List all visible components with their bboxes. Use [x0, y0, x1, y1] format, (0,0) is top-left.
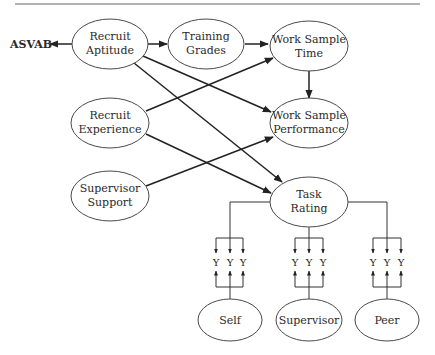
- svg-text:Performance: Performance: [273, 123, 344, 136]
- svg-text:Recruit: Recruit: [89, 109, 131, 122]
- svg-text:Work Sample: Work Sample: [272, 109, 346, 122]
- indicator-y: Y: [239, 257, 247, 268]
- indicator-y: Y: [305, 257, 313, 268]
- node-work-sample-time: Work Sample Time: [270, 21, 348, 71]
- svg-text:Supervisor: Supervisor: [80, 182, 141, 195]
- svg-text:Rating: Rating: [290, 202, 327, 215]
- node-self: Self: [198, 299, 262, 341]
- svg-text:Time: Time: [295, 47, 323, 60]
- svg-text:Grades: Grades: [186, 44, 226, 57]
- indicator-y: Y: [369, 257, 377, 268]
- svg-text:Supervisor: Supervisor: [279, 314, 340, 327]
- node-recruit-experience: Recruit Experience: [71, 98, 149, 148]
- path-diagram: ASVAB Recruit Aptitude Training Grades W…: [0, 0, 435, 355]
- indicator-y: Y: [291, 257, 299, 268]
- svg-text:Self: Self: [219, 314, 242, 327]
- indicator-group-right: Y Y Y: [369, 257, 405, 268]
- node-supervisor: Supervisor: [276, 299, 342, 341]
- edge-experience-task: [146, 134, 271, 193]
- svg-text:Work Sample: Work Sample: [272, 33, 346, 46]
- svg-text:Recruit: Recruit: [89, 30, 131, 43]
- node-peer: Peer: [355, 299, 419, 341]
- indicator-y: Y: [397, 257, 405, 268]
- edge-aptitude-task: [134, 63, 282, 182]
- indicator-group-left: Y Y Y: [212, 257, 247, 268]
- method-connectors: [216, 271, 401, 299]
- node-task-rating: Task Rating: [270, 177, 348, 227]
- indicator-y: Y: [383, 257, 391, 268]
- svg-text:Peer: Peer: [374, 314, 400, 327]
- svg-text:Training: Training: [182, 30, 229, 43]
- edge-support-wsperf: [146, 137, 273, 186]
- svg-text:Task: Task: [296, 188, 322, 201]
- node-work-sample-performance: Work Sample Performance: [270, 98, 348, 148]
- indicator-y: Y: [212, 257, 220, 268]
- svg-text:Support: Support: [87, 196, 133, 209]
- indicator-group-middle: Y Y Y: [291, 257, 327, 268]
- indicator-y: Y: [319, 257, 327, 268]
- node-training-grades: Training Grades: [168, 19, 244, 69]
- node-recruit-aptitude: Recruit Aptitude: [72, 19, 148, 69]
- asvab-label: ASVAB: [9, 38, 52, 51]
- indicator-y: Y: [226, 257, 234, 268]
- svg-text:Aptitude: Aptitude: [85, 44, 134, 57]
- svg-text:Experience: Experience: [79, 123, 142, 136]
- node-supervisor-support: Supervisor Support: [71, 171, 149, 221]
